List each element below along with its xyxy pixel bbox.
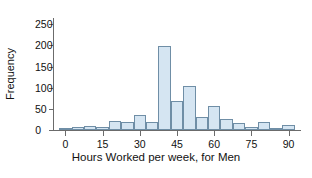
histogram-bar <box>158 46 170 130</box>
y-axis-tick <box>49 109 53 110</box>
x-axis-tick-label: 30 <box>134 138 146 150</box>
histogram-bar <box>233 123 245 130</box>
x-axis-tick-label: 0 <box>62 138 68 150</box>
histogram-bar <box>196 117 208 130</box>
x-axis-tick <box>177 131 178 136</box>
histogram-bar <box>183 86 195 130</box>
x-axis-tick <box>289 131 290 136</box>
x-axis-tick-label: 90 <box>283 138 295 150</box>
histogram-bar <box>220 119 232 130</box>
y-axis-tick-label: 250 <box>35 18 41 30</box>
histogram-bar <box>245 127 257 130</box>
y-axis-tick-label: 150 <box>35 61 41 73</box>
y-axis-tick-label: 50 <box>35 103 41 115</box>
histogram-bar <box>72 127 84 130</box>
histogram-bar <box>282 125 294 130</box>
x-axis-tick <box>65 131 66 136</box>
histogram-bar <box>208 106 220 130</box>
y-axis-tick <box>49 130 53 131</box>
x-axis-title: Hours Worked per week, for Men <box>0 151 312 163</box>
y-axis-tick-label: 0 <box>35 124 41 136</box>
x-axis-tick <box>214 131 215 136</box>
histogram-bar <box>96 127 108 130</box>
y-axis-tick-label: 100 <box>35 82 41 94</box>
x-axis-tick-label: 45 <box>171 138 183 150</box>
x-axis-tick-label: 75 <box>246 138 258 150</box>
histogram-bar <box>121 122 133 130</box>
y-axis-line <box>53 18 54 131</box>
x-axis-tick <box>103 131 104 136</box>
histogram-bar <box>109 121 121 130</box>
y-axis-title-label: Frequency <box>4 48 16 100</box>
x-axis-tick <box>251 131 252 136</box>
histogram-chart: Frequency 0501001502002500153045607590 H… <box>0 0 312 178</box>
histogram-bar <box>171 101 183 130</box>
y-axis-title: Frequency <box>2 18 18 130</box>
histogram-bar <box>270 128 282 130</box>
histogram-bar <box>84 126 96 130</box>
histogram-bar <box>59 128 71 130</box>
histogram-bar <box>146 122 158 130</box>
histogram-bar <box>258 122 270 130</box>
x-axis-tick-label: 60 <box>208 138 220 150</box>
x-axis-tick <box>140 131 141 136</box>
histogram-bar <box>134 115 146 130</box>
x-axis-tick-label: 15 <box>97 138 109 150</box>
y-axis-tick-label: 200 <box>35 39 41 51</box>
plot-area: 0501001502002500153045607590 <box>53 18 301 131</box>
